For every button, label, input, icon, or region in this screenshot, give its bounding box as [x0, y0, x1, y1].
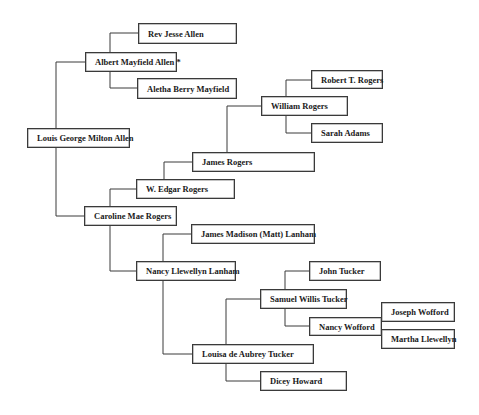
person-john-tucker: John Tucker [309, 261, 381, 281]
person-name: Louisa de Aubrey Tucker [202, 349, 294, 359]
person-name: Samuel Willis Tucker [270, 294, 348, 304]
person-w-edgar-rogers: W. Edgar Rogers [136, 179, 235, 199]
person-james-madison-lanham: James Madison (Matt) Lanham [191, 224, 315, 244]
person-dicey-howard: Dicey Howard [260, 371, 347, 391]
person-name: John Tucker [319, 266, 365, 276]
person-name: James Rogers [202, 157, 252, 167]
person-joseph-wofford: Joseph Wofford [381, 302, 455, 322]
person-albert-mayfield-allen: Albert Mayfield Allen * [85, 52, 177, 72]
person-name: Dicey Howard [270, 376, 322, 386]
person-nancy-wofford: Nancy Wofford [309, 317, 382, 336]
person-name: William Rogers [271, 101, 328, 111]
person-robert-t-rogers: Robert T. Rogers [311, 70, 383, 89]
person-name: Martha Llewellyn [391, 334, 456, 344]
person-name: Rev Jesse Allen [148, 29, 204, 39]
person-name: Albert Mayfield Allen * [95, 57, 181, 67]
person-name: Nancy Llewellyn Lanham [146, 266, 240, 276]
person-name: Nancy Wofford [319, 322, 375, 332]
person-name: Louis George Milton Allen [37, 133, 134, 143]
person-nancy-llewellyn-lanham: Nancy Llewellyn Lanham [136, 261, 236, 281]
person-louisa-de-aubrey-tucker: Louisa de Aubrey Tucker [192, 344, 314, 364]
person-name: Caroline Mae Rogers [94, 211, 171, 221]
person-name: Joseph Wofford [391, 307, 449, 317]
person-samuel-willis-tucker: Samuel Willis Tucker [260, 289, 347, 309]
person-william-rogers: William Rogers [261, 96, 348, 116]
person-name: Sarah Adams [321, 128, 370, 138]
person-name: James Madison (Matt) Lanham [201, 229, 316, 239]
person-name: Aletha Berry Mayfield [147, 84, 229, 94]
person-rev-jesse-allen: Rev Jesse Allen [138, 23, 237, 44]
person-martha-llewellyn: Martha Llewellyn [381, 329, 455, 349]
person-caroline-mae-rogers: Caroline Mae Rogers [84, 206, 177, 226]
person-james-rogers: James Rogers [192, 152, 315, 172]
person-louis-george-milton-allen: Louis George Milton Allen [27, 128, 130, 148]
person-name: W. Edgar Rogers [146, 184, 208, 194]
person-aletha-berry-mayfield: Aletha Berry Mayfield [137, 78, 237, 99]
person-name: Robert T. Rogers [321, 75, 383, 85]
person-sarah-adams: Sarah Adams [311, 123, 383, 143]
pedigree-chart: Louis George Milton Allen Albert Mayfiel… [0, 0, 479, 415]
